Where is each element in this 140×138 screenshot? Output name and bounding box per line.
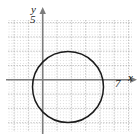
coordinate-plane-svg: [0, 0, 140, 138]
graph-figure: y x 5 7: [0, 0, 140, 138]
y-axis-tick-label-5: 5: [30, 14, 36, 25]
x-axis-label: x: [128, 72, 133, 83]
x-axis-tick-label-7: 7: [115, 78, 121, 89]
